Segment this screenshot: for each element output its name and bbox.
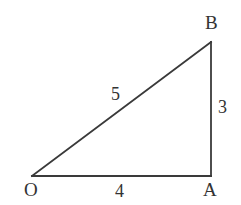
side-label-hypotenuse: 5 xyxy=(111,85,120,103)
vertex-label-B: B xyxy=(205,13,218,32)
vertex-label-O: O xyxy=(24,180,38,199)
side-label-base: 4 xyxy=(115,182,124,200)
vertex-label-A: A xyxy=(203,180,217,199)
triangle-edge-hypotenuse-OB xyxy=(32,42,211,176)
triangle-diagram: B O A 5 3 4 xyxy=(0,0,241,205)
side-label-vertical: 3 xyxy=(218,98,227,116)
